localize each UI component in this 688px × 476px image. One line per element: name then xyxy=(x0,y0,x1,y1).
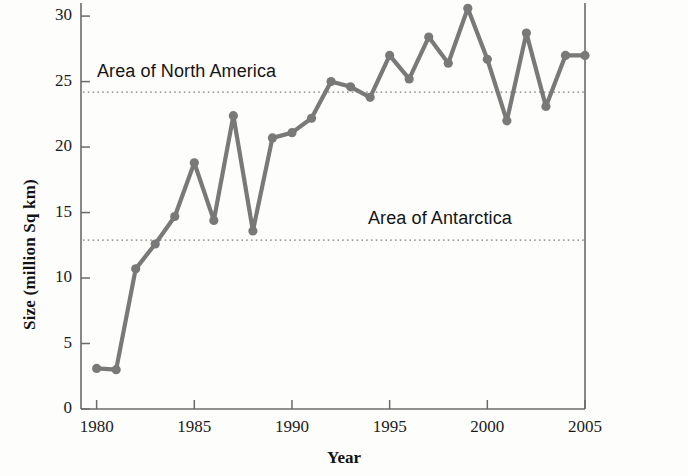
data-point xyxy=(170,212,179,221)
data-point xyxy=(346,82,355,91)
x-tick-label: 1985 xyxy=(152,417,236,437)
data-point xyxy=(385,51,394,60)
y-axis-ticks xyxy=(81,16,90,409)
data-point xyxy=(366,93,375,102)
x-tick-label: 1995 xyxy=(348,417,432,437)
x-tick-label: 1980 xyxy=(55,417,139,437)
y-tick-label: 10 xyxy=(26,267,72,287)
data-point xyxy=(580,51,589,60)
data-point xyxy=(424,32,433,41)
data-point xyxy=(326,77,335,86)
x-axis-ticks xyxy=(97,400,585,409)
data-point xyxy=(229,111,238,120)
x-tick-label: 2000 xyxy=(445,417,529,437)
data-point xyxy=(405,74,414,83)
data-point xyxy=(112,365,121,374)
y-tick-label: 15 xyxy=(26,202,72,222)
data-point xyxy=(307,114,316,123)
data-point-markers xyxy=(92,4,590,375)
y-tick-label: 25 xyxy=(26,71,72,91)
x-tick-label: 2005 xyxy=(543,417,627,437)
data-point xyxy=(463,4,472,13)
y-tick-label: 20 xyxy=(26,136,72,156)
data-point xyxy=(561,51,570,60)
data-point xyxy=(151,239,160,248)
y-tick-label: 0 xyxy=(26,398,72,418)
data-point xyxy=(541,102,550,111)
x-tick-label: 1990 xyxy=(250,417,334,437)
y-tick-label: 5 xyxy=(26,333,72,353)
reference-label-north-america: Area of North America xyxy=(97,61,276,82)
data-point xyxy=(190,158,199,167)
data-point xyxy=(483,55,492,64)
data-point xyxy=(502,116,511,125)
data-point xyxy=(92,364,101,373)
data-point xyxy=(131,264,140,273)
reference-label-antarctica: Area of Antarctica xyxy=(368,208,512,229)
data-point xyxy=(268,133,277,142)
data-point xyxy=(248,226,257,235)
data-point xyxy=(287,128,296,137)
chart-figure: Size (million Sq km) Year Area of North … xyxy=(0,0,688,476)
data-point xyxy=(209,216,218,225)
x-axis-title: Year xyxy=(0,448,688,468)
data-point xyxy=(444,59,453,68)
y-tick-label: 30 xyxy=(26,5,72,25)
data-point xyxy=(522,29,531,38)
